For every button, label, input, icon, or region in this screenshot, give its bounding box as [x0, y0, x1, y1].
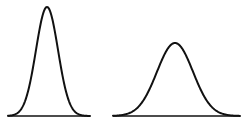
bell-curves-diagram: [0, 0, 244, 126]
wide-short-bell-curve: [113, 43, 240, 116]
narrow-bell-outline: [8, 7, 90, 116]
figure: [0, 0, 244, 126]
wide-bell-outline: [113, 43, 240, 116]
narrow-tall-bell-curve: [8, 7, 90, 116]
